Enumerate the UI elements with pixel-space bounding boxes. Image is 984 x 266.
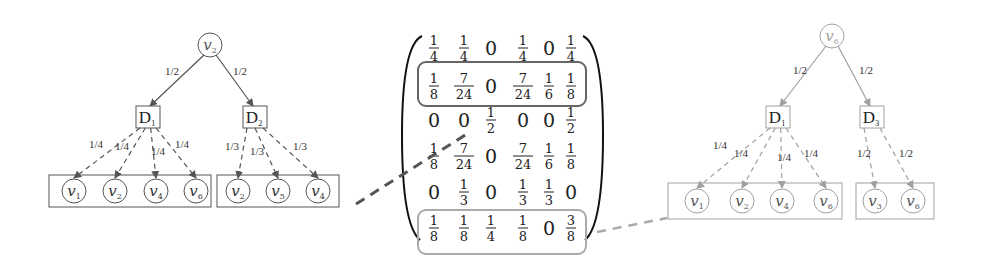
- matrix-cell: 0: [517, 109, 529, 131]
- matrix-cell-numerator: 7: [460, 71, 468, 86]
- matrix-cell-denominator: 6: [545, 157, 553, 172]
- left-tree: v21/2D11/4v11/4v21/4v41/4v61/2D21/3v21/3…: [49, 33, 339, 207]
- edge-probability-label: 1/4: [115, 140, 130, 152]
- matrix-cell: 0: [485, 75, 497, 97]
- edge-probability-label: 1/3: [250, 145, 265, 157]
- matrix-cell: 0: [543, 37, 555, 59]
- matrix-cell-numerator: 1: [545, 141, 553, 156]
- matrix-cell-numerator: 1: [460, 33, 468, 48]
- matrix-cell-numerator: 1: [519, 213, 527, 228]
- matrix-cell-denominator: 8: [567, 157, 575, 172]
- matrix-cell-denominator: 4: [567, 49, 575, 64]
- edge-probability-label: 1/4: [777, 151, 792, 163]
- matrix-cell-numerator: 1: [487, 105, 495, 120]
- matrix-cell-numerator: 1: [567, 141, 575, 156]
- edge-probability-label: 1/4: [89, 138, 104, 150]
- matrix-cell: 0: [543, 217, 555, 239]
- matrix-cell-denominator: 6: [545, 87, 553, 102]
- highlight-row-2: [418, 62, 586, 106]
- diagram-canvas: v21/2D11/4v11/4v21/4v41/4v61/2D21/3v21/3…: [0, 0, 984, 266]
- matrix-cell-denominator: 2: [567, 121, 575, 136]
- edge-probability-label: 1/4: [175, 138, 190, 150]
- matrix-cell-numerator: 1: [567, 33, 575, 48]
- matrix-cell: 0: [565, 181, 577, 203]
- matrix-cell-denominator: 3: [460, 193, 468, 208]
- matrix-cell-denominator: 24: [456, 157, 473, 172]
- matrix-cell-numerator: 1: [460, 177, 468, 192]
- matrix-cell-denominator: 8: [460, 229, 468, 244]
- matrix-cell-denominator: 24: [515, 87, 532, 102]
- matrix-cell-numerator: 1: [430, 71, 438, 86]
- edge-probability-label: 1/3: [293, 140, 308, 152]
- edge-probability-label: 1/4: [804, 147, 819, 159]
- edge-probability-label: 1/4: [713, 139, 728, 151]
- edge-probability-label: 1/2: [899, 147, 913, 159]
- matrix-cell-denominator: 24: [456, 87, 473, 102]
- right-tree: v61/2D11/4v11/4v21/4v41/4v61/2D31/2v31/2…: [668, 24, 934, 219]
- matrix-cell-denominator: 4: [460, 49, 468, 64]
- matrix-cell-numerator: 1: [430, 213, 438, 228]
- matrix-cell-numerator: 3: [567, 213, 575, 228]
- matrix-cell-numerator: 1: [567, 105, 575, 120]
- matrix-cell-numerator: 7: [519, 141, 527, 156]
- matrix-cell-numerator: 1: [487, 213, 495, 228]
- edge-root-to-decision: [780, 46, 826, 106]
- matrix-cell-denominator: 4: [430, 49, 438, 64]
- matrix-cell: 0: [428, 109, 440, 131]
- matrix-cell-denominator: 24: [515, 157, 532, 172]
- matrix-cell-denominator: 4: [519, 49, 527, 64]
- matrix-cell-denominator: 3: [545, 193, 553, 208]
- matrix-cell-denominator: 4: [487, 229, 495, 244]
- matrix-cell-numerator: 1: [430, 33, 438, 48]
- connector-row2-to-left-tree: [356, 132, 470, 204]
- matrix-cell: 0: [428, 181, 440, 203]
- matrix-cell-numerator: 1: [567, 71, 575, 86]
- edge-probability-label: 1/4: [734, 147, 749, 159]
- edge-root-to-decision: [838, 46, 870, 106]
- matrix-cell-denominator: 8: [567, 229, 575, 244]
- edge-probability-label: 1/4: [151, 145, 166, 157]
- matrix-cell-numerator: 1: [519, 33, 527, 48]
- edge-root-to-decision: [216, 55, 253, 106]
- matrix-cell-numerator: 1: [545, 71, 553, 86]
- matrix-cell: 0: [543, 109, 555, 131]
- matrix-cell-numerator: 7: [519, 71, 527, 86]
- connector-row6-to-right-tree: [597, 218, 667, 232]
- edge-probability-label: 1/2: [793, 64, 807, 76]
- matrix-cell: 0: [485, 145, 497, 167]
- matrix-cell-denominator: 8: [430, 229, 438, 244]
- matrix-cell-denominator: 8: [567, 87, 575, 102]
- matrix-cell-denominator: 3: [519, 193, 527, 208]
- edge-probability-label: 1/3: [225, 140, 240, 152]
- matrix-cell-denominator: 8: [430, 157, 438, 172]
- matrix-cell-numerator: 1: [460, 213, 468, 228]
- edge-decision-to-outcome: [238, 128, 247, 178]
- matrix-cell-denominator: 8: [430, 87, 438, 102]
- edge-probability-label: 1/2: [233, 65, 247, 77]
- matrix-cell: 0: [485, 37, 497, 59]
- matrix-cell-numerator: 7: [460, 141, 468, 156]
- edge-decision-to-outcome: [263, 128, 318, 178]
- matrix-cell-denominator: 2: [487, 121, 495, 136]
- edge-probability-label: 1/2: [857, 147, 871, 159]
- matrix-cell-numerator: 1: [519, 177, 527, 192]
- edge-probability-label: 1/2: [859, 64, 873, 76]
- transition-matrix: 1414014014187240724161800120012187240724…: [402, 33, 603, 254]
- matrix-cell-numerator: 1: [545, 177, 553, 192]
- matrix-cell: 0: [485, 181, 497, 203]
- edge-probability-label: 1/2: [165, 65, 179, 77]
- edge-root-to-decision: [150, 55, 204, 106]
- matrix-cell-denominator: 8: [519, 229, 527, 244]
- matrix-cell: 0: [458, 109, 470, 131]
- highlight-row-6: [418, 210, 586, 254]
